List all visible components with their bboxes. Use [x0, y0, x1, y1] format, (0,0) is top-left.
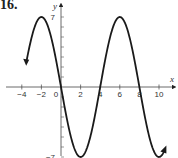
svg-text:0: 0 [54, 90, 59, 99]
svg-text:−4: −4 [17, 90, 27, 99]
svg-text:10: 10 [155, 90, 164, 99]
svg-text:−2: −2 [37, 90, 47, 99]
svg-text:2: 2 [78, 90, 83, 99]
sine-graph: xy−4−202468107−7 [0, 0, 178, 158]
svg-text:x: x [169, 74, 174, 84]
svg-text:−7: −7 [46, 153, 56, 158]
svg-text:7: 7 [51, 13, 56, 22]
svg-text:6: 6 [118, 90, 123, 99]
svg-text:y: y [52, 1, 57, 11]
